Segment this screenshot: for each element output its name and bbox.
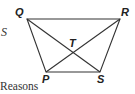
reasons-heading: Reasons	[0, 80, 38, 92]
label-q: Q	[15, 6, 24, 18]
label-t: T	[69, 37, 77, 49]
label-p: P	[42, 73, 50, 85]
diagonal-qs	[27, 19, 100, 72]
label-r: R	[121, 6, 129, 18]
diagonal-rp	[46, 19, 120, 72]
label-s: S	[97, 73, 105, 85]
